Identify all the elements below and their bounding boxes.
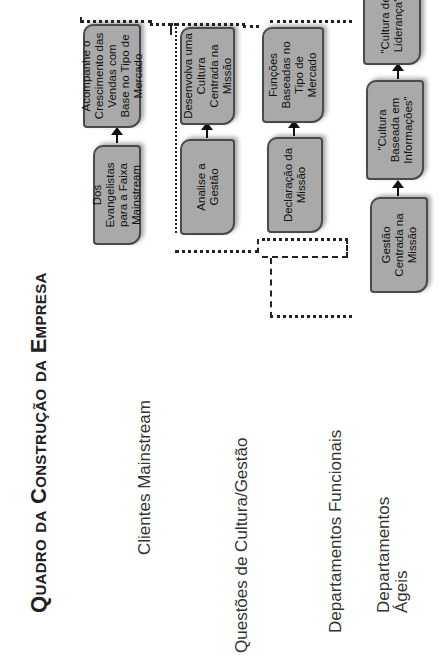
slide: Quadro da Construção da Empresa Clientes… xyxy=(0,0,448,663)
box-gestao-centrada: Gestão Centrada na Missão xyxy=(370,197,428,293)
connector-row3-vertical xyxy=(270,20,352,318)
arrow-right-icon xyxy=(397,65,399,79)
box-cultura-lideranca: "Cultura de Liderança" xyxy=(363,0,421,65)
connector-row2-return xyxy=(170,23,245,35)
row-label-questoes-cultura: Questões de Cultura/Gestão xyxy=(233,438,251,653)
row-label-clientes-mainstream: Clientes Mainstream xyxy=(136,400,154,555)
connector-row1-row2 xyxy=(150,23,177,233)
row-label-departamentos-ageis-line2: Ágeis xyxy=(393,570,411,613)
connector-row3-top xyxy=(270,258,272,318)
box-acompanhe-crescimento: Acompanhe o Crescimento das Vendas com B… xyxy=(83,24,141,128)
box-cultura-informacoes: "Cultura Baseada em Informações" xyxy=(366,80,424,180)
box-desenvolva-cultura: Desenvolva uma Cultura Centrada na Missã… xyxy=(180,27,235,125)
row-label-departamentos-funcionais: Departamentos Funcionais xyxy=(327,430,345,633)
connector-row2-row3 xyxy=(243,25,259,253)
arrow-right-icon xyxy=(397,182,399,196)
page-title: Quadro da Construção da Empresa xyxy=(26,93,52,613)
arrow-right-icon xyxy=(206,124,208,138)
box-dos-evangelistas: Dos Evangelistas para a Faixa Mainstream xyxy=(93,145,141,245)
row-label-departamentos-ageis-line1: Departamentos xyxy=(375,497,393,613)
connector-row1-return xyxy=(80,17,152,23)
box-analise-gestao: Analise a Gestão xyxy=(180,139,235,235)
arrow-right-icon xyxy=(116,129,118,143)
